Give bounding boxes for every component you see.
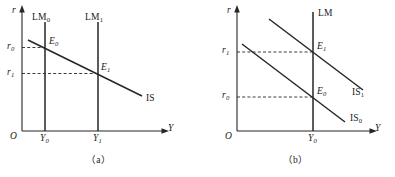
y-tick-label-r1-b: r1 <box>222 46 229 56</box>
curve-label-lm1-sub-a: 1 <box>100 16 103 23</box>
x-tick-y1-main-a: Y <box>93 133 98 143</box>
panel-a-plot <box>0 0 197 177</box>
curve-label-lm1-a: LM1 <box>85 13 103 23</box>
curve-label-lm1-main-a: LM <box>85 12 99 22</box>
is-lm-figure: r Y O r0 r1 Y0 Y1 LM0 LM1 IS E0 E1 <box>0 0 395 177</box>
x-tick-label-y1-a: Y1 <box>93 134 102 144</box>
panel-a: r Y O r0 r1 Y0 Y1 LM0 LM1 IS E0 E1 <box>0 0 197 177</box>
equilibrium-e0-sub-a: 0 <box>55 40 58 47</box>
x-tick-y0-main-a: Y <box>40 133 45 143</box>
curve-label-is1-b: IS1 <box>352 88 364 98</box>
y-tick-r1-sub-b: 1 <box>226 49 229 56</box>
x-axis-label-a: Y <box>168 124 173 134</box>
curve-label-lm-b: LM <box>318 9 332 19</box>
curve-label-lm0-main-a: LM <box>32 12 46 22</box>
curve-is0-b <box>242 44 345 122</box>
equilibrium-e1-sub-b: 1 <box>323 45 326 52</box>
y-tick-r1-sub-a: 1 <box>11 71 14 78</box>
panel-b: r Y O r1 r0 Y0 LM IS1 IS0 E1 E0 （b） <box>197 0 394 177</box>
curve-label-is0-main-b: IS <box>350 113 359 123</box>
x-tick-label-y0-b: Y0 <box>308 134 317 144</box>
curve-label-lm0-a: LM0 <box>32 13 50 23</box>
x-axis-label-b: Y <box>375 124 380 134</box>
y-tick-r0-sub-a: 0 <box>11 45 14 52</box>
y-axis-arrow-b <box>234 5 240 13</box>
y-axis-label-a: r <box>12 6 16 16</box>
panel-b-plot <box>197 0 394 177</box>
y-tick-label-r1-a: r1 <box>7 68 14 78</box>
x-tick-y0-sub-a: 0 <box>46 137 49 144</box>
y-axis-arrow-a <box>19 5 25 13</box>
y-tick-label-r0-a: r0 <box>7 42 14 52</box>
curve-label-lm0-sub-a: 0 <box>47 16 50 23</box>
curve-label-is1-main-b: IS <box>352 87 361 97</box>
equilibrium-label-e0-b: E0 <box>317 87 326 97</box>
equilibrium-e1-sub-a: 1 <box>107 66 110 73</box>
equilibrium-label-e1-a: E1 <box>101 63 110 73</box>
y-tick-label-r0-b: r0 <box>222 91 229 101</box>
x-tick-label-y0-a: Y0 <box>40 134 49 144</box>
panel-a-caption: （a） <box>0 152 197 166</box>
panel-b-caption: （b） <box>197 152 394 166</box>
equilibrium-label-e1-b: E1 <box>317 42 326 52</box>
equilibrium-label-e0-a: E0 <box>49 37 58 47</box>
curve-label-is0-sub-b: 0 <box>359 117 362 124</box>
x-tick-y0-main-b: Y <box>308 133 313 143</box>
y-tick-r0-sub-b: 0 <box>226 94 229 101</box>
curve-is1-b <box>269 19 363 90</box>
curve-label-is1-sub-b: 1 <box>361 91 364 98</box>
y-axis-label-b: r <box>227 6 231 16</box>
curve-label-is0-b: IS0 <box>350 114 362 124</box>
x-tick-y1-sub-a: 1 <box>99 137 102 144</box>
origin-label-a: O <box>10 132 17 142</box>
x-tick-y0-sub-b: 0 <box>314 137 317 144</box>
equilibrium-e0-sub-b: 0 <box>323 90 326 97</box>
curve-label-is-a: IS <box>146 94 155 104</box>
origin-label-b: O <box>225 132 232 142</box>
